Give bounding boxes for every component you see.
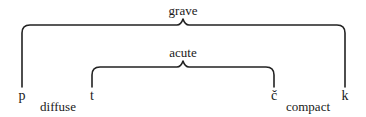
acute-bracket xyxy=(92,61,274,87)
compact-label: compact xyxy=(286,100,330,113)
diffuse-label: diffuse xyxy=(40,100,76,113)
phoneme-p: p xyxy=(19,89,26,103)
phoneme-c-caron: č xyxy=(271,89,277,103)
phoneme-k: k xyxy=(342,89,349,103)
grave-label: grave xyxy=(169,4,198,17)
phoneme-t: t xyxy=(90,89,94,103)
acute-label: acute xyxy=(169,46,196,59)
